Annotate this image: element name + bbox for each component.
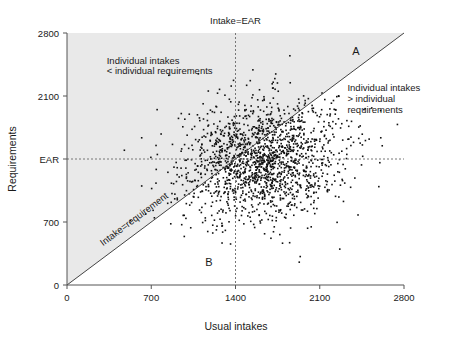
plot-svg: 2800 2100 EAR 700 0 0 700 1400 2100 2800… [0,0,449,340]
x-tick-label-1400: 1400 [225,292,246,303]
y-tick-label-0: 0 [54,280,59,291]
x-tick-label-2800: 2800 [393,292,414,303]
y-tick-label-2100: 2100 [38,91,59,102]
x-tick-label-700: 700 [143,292,159,303]
note-right-line-2: > individual [347,93,395,104]
x-tick-label-0: 0 [64,292,69,303]
y-tick-label-ear: EAR [39,154,59,165]
y-tick-label-700: 700 [43,217,59,228]
y-axis-title: Requirements [6,126,18,191]
note-upper-left-line-1: Individual intakes [107,55,180,66]
region-label-b: B [205,256,212,268]
note-right-line-3: requirements [347,104,403,115]
scatter-chart: 2800 2100 EAR 700 0 0 700 1400 2100 2800… [0,0,449,340]
note-right-line-1: Individual intakes [347,82,420,93]
note-upper-left-line-2: < individual requirements [107,65,213,76]
region-label-a: A [352,45,360,57]
y-tick-label-2800: 2800 [38,28,59,39]
x-axis-title: Usual intakes [204,320,267,332]
intake-equals-ear-label: Intake=EAR [210,15,261,26]
x-tick-label-2100: 2100 [309,292,330,303]
